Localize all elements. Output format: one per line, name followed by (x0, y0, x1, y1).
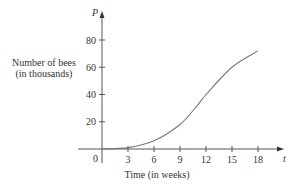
x-axis-variable: t (283, 153, 286, 164)
y-axis-arrow-icon (100, 11, 105, 18)
x-tick-label: 3 (126, 154, 131, 165)
x-axis-arrow-icon (277, 147, 284, 152)
x-tick-label: 6 (152, 154, 157, 165)
y-axis-variable: P (91, 7, 98, 18)
x-tick-label: 9 (178, 154, 183, 165)
y-tick-label: 60 (86, 62, 96, 73)
y-tick-label: 20 (86, 116, 96, 127)
x-tick-label: 12 (201, 154, 211, 165)
x-axis-label: Time (in weeks) (124, 169, 189, 181)
origin-label: 0 (93, 153, 98, 164)
x-tick-label: 15 (227, 154, 237, 165)
x-tick-label: 18 (253, 154, 263, 165)
data-curve (102, 51, 258, 149)
axes (78, 11, 284, 163)
chart-canvas: 20406080 369121518 P t 0 Time (in weeks) (0, 0, 296, 189)
y-tick-label: 80 (86, 35, 96, 46)
y-tick-label: 40 (86, 89, 96, 100)
